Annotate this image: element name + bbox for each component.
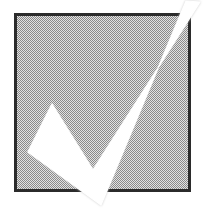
icon-canvas: A large white check mark drawn over a gr… — [0, 0, 207, 211]
checkmark-illustration — [0, 0, 207, 211]
